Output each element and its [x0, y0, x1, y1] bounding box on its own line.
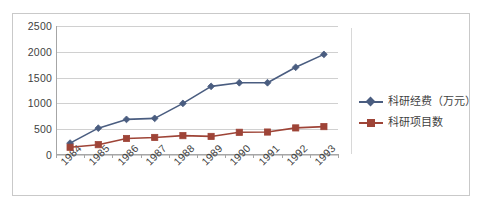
y-axis-tick-label: 1500: [16, 73, 52, 83]
legend-marker-square-icon: [359, 117, 383, 129]
legend-item-1[interactable]: 科研项目数: [359, 115, 443, 131]
legend-label-0: 科研经费（万元）: [388, 96, 476, 108]
data-point[interactable]: [152, 134, 158, 140]
legend-item-0[interactable]: 科研经费（万元）: [359, 94, 476, 110]
y-axis-tick-labels: 05001000150020002500: [13, 26, 52, 155]
y-axis-tick-label: 500: [16, 124, 52, 134]
data-point[interactable]: [123, 116, 130, 123]
data-point[interactable]: [236, 129, 242, 135]
legend-divider: [351, 28, 352, 154]
data-point[interactable]: [151, 115, 158, 122]
y-axis-tick-label: 2000: [16, 47, 52, 57]
x-axis-tick-labels: 1984198519861987198819891990199119921993: [56, 159, 339, 199]
data-point[interactable]: [180, 100, 187, 107]
chart-legend: 科研经费（万元） 科研项目数: [357, 26, 469, 155]
data-point[interactable]: [208, 83, 215, 90]
legend-label-1: 科研项目数: [388, 117, 443, 129]
chart-plot-wrapper: 05001000150020002500 1984198519861987198…: [13, 14, 471, 197]
data-point[interactable]: [95, 142, 101, 148]
data-point[interactable]: [292, 64, 299, 71]
data-point[interactable]: [264, 79, 271, 86]
legend-marker-diamond-icon: [359, 96, 383, 108]
y-axis-tick-label: 1000: [16, 98, 52, 108]
data-point[interactable]: [264, 129, 270, 135]
data-point[interactable]: [236, 79, 243, 86]
y-axis-tick-label: 0: [16, 150, 52, 160]
chart-container: 05001000150020002500 1984198519861987198…: [12, 13, 470, 196]
x-axis-tick-mark: [338, 154, 339, 158]
series-line-1: [70, 127, 324, 148]
data-point[interactable]: [95, 125, 102, 132]
data-point[interactable]: [321, 124, 327, 130]
data-point[interactable]: [123, 135, 129, 141]
data-point[interactable]: [293, 125, 299, 131]
y-axis-tick-label: 2500: [16, 21, 52, 31]
data-point[interactable]: [321, 51, 328, 58]
series-plot: [56, 26, 338, 155]
data-point[interactable]: [208, 133, 214, 139]
data-point[interactable]: [180, 133, 186, 139]
data-point[interactable]: [67, 144, 73, 150]
